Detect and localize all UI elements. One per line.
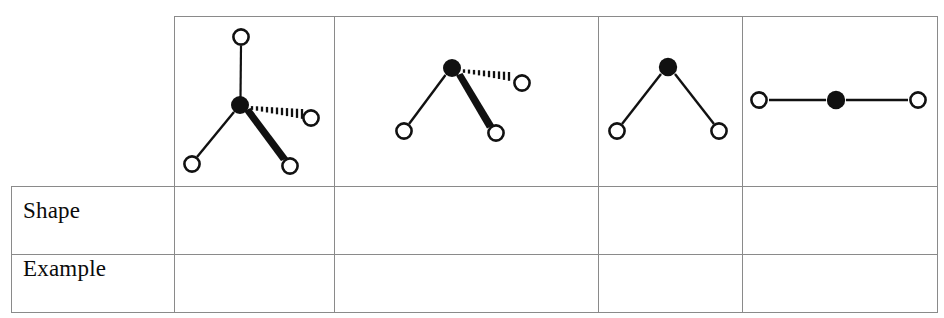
cell-example-col-1[interactable]	[175, 255, 334, 312]
diagram-cell-4	[743, 16, 937, 186]
atom-open-right	[514, 75, 529, 90]
atom-open-top	[233, 29, 248, 44]
cell-example-col-4[interactable]	[743, 255, 937, 312]
atom-open-bottom-right	[282, 158, 297, 173]
atom-open-bottom-left	[396, 123, 411, 138]
row-label-shape: Shape	[23, 198, 80, 224]
table-border-bottom	[11, 312, 938, 313]
cell-shape-col-3[interactable]	[599, 187, 742, 254]
clipped-header-text	[108, 0, 408, 6]
row-label-example: Example	[23, 256, 106, 282]
atom-open-bottom-left	[184, 156, 199, 171]
atom-open-bottom-left	[609, 123, 624, 138]
atom-center-filled	[827, 91, 845, 109]
table-border-left	[11, 186, 12, 312]
atom-open-right	[303, 110, 318, 125]
bond-solid-wedge-down-right	[456, 73, 494, 129]
bond-hashed-wedge-right	[464, 69, 509, 81]
atom-center-filled	[659, 58, 677, 76]
cell-example-col-3[interactable]	[599, 255, 742, 312]
atom-open-bottom-right	[711, 123, 726, 138]
atom-open-left	[751, 92, 766, 107]
cell-shape-col-1[interactable]	[175, 187, 334, 254]
atom-open-bottom-right	[488, 125, 503, 140]
atom-center-filled	[443, 59, 461, 77]
bond-plain-down-left	[197, 112, 234, 157]
bond-plain-down-left	[622, 74, 661, 124]
diagram-cell-1	[175, 16, 333, 186]
molecule-diagram-bent	[599, 16, 741, 186]
molecule-diagram-linear	[743, 16, 937, 186]
page-canvas: Shape Example	[0, 0, 944, 318]
cell-shape-col-2[interactable]	[335, 187, 598, 254]
diagram-cell-3	[599, 16, 741, 186]
cell-example-col-2[interactable]	[335, 255, 598, 312]
atom-open-right	[910, 92, 925, 107]
bond-plain-down-right	[675, 74, 714, 124]
atom-center-filled	[231, 96, 249, 114]
diagram-cell-2	[335, 16, 597, 186]
cell-shape-col-4[interactable]	[743, 187, 937, 254]
bond-plain-up	[241, 46, 242, 97]
molecule-diagram-three-bonds	[335, 16, 597, 186]
bond-plain-down-left	[409, 75, 446, 124]
bond-solid-wedge-down-right	[244, 108, 288, 161]
bond-hashed-wedge-right	[252, 106, 302, 119]
molecule-diagram-four-bonds	[175, 16, 333, 186]
table-border-right	[937, 16, 938, 312]
